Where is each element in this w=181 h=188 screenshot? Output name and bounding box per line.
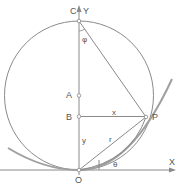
diagram-canvas: Y C φ A B x P y r θ X O [0, 0, 181, 188]
parabola-curve [8, 79, 172, 170]
x-axis-arrow-icon [169, 168, 176, 173]
label-b: B [66, 112, 72, 122]
segment-cp [79, 21, 146, 117]
label-x-axis: X [169, 157, 175, 167]
label-o: O [75, 175, 82, 185]
label-phi: φ [82, 35, 87, 44]
point-o-marker [77, 168, 81, 172]
label-c: C [70, 6, 77, 16]
point-b-marker [77, 115, 81, 119]
angle-phi-arc [79, 29, 85, 31]
point-a-marker [77, 94, 81, 98]
point-c-marker [77, 19, 81, 23]
label-p: P [152, 112, 158, 122]
label-a: A [66, 90, 72, 100]
label-x-seg: x [112, 108, 116, 117]
label-theta: θ [113, 160, 118, 169]
label-r-seg: r [109, 135, 112, 144]
label-y-axis: Y [83, 6, 89, 16]
point-p-marker [144, 115, 148, 119]
y-axis-arrow-icon [77, 5, 82, 12]
label-y-seg: y [82, 136, 86, 145]
